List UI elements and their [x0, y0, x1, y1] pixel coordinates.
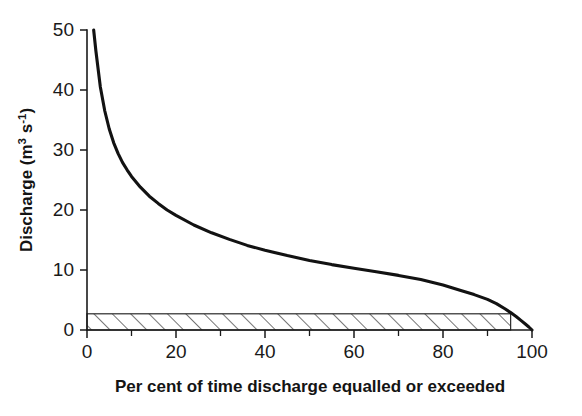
- y-axis-title-sup-2: -1: [16, 113, 28, 124]
- hatched-low-flow-band: [87, 314, 511, 330]
- y-axis-title-main: Discharge (m: [17, 144, 36, 252]
- hatch-band-rect: [87, 314, 511, 330]
- x-axis-title: Per cent of time discharge equalled or e…: [115, 377, 505, 396]
- x-axis-ticks: 020406080100: [82, 330, 548, 362]
- x-tick-label: 20: [165, 341, 186, 362]
- y-axis-title-end: ): [17, 108, 36, 114]
- y-tick-label: 0: [63, 319, 74, 340]
- y-tick-label: 50: [53, 19, 74, 40]
- chart-canvas: 01020304050 020406080100 Discharge (m3 s…: [0, 0, 582, 416]
- flow-duration-curve-figure: 01020304050 020406080100 Discharge (m3 s…: [0, 0, 582, 416]
- y-axis-title: Discharge (m3 s-1): [16, 108, 36, 252]
- y-axis-ticks: 01020304050: [53, 19, 87, 340]
- x-tick-label: 80: [432, 341, 453, 362]
- y-tick-label: 40: [53, 79, 74, 100]
- y-axis-title-mid: s: [17, 124, 36, 138]
- y-tick-label: 20: [53, 199, 74, 220]
- x-tick-label: 40: [254, 341, 275, 362]
- y-tick-label: 30: [53, 139, 74, 160]
- y-tick-label: 10: [53, 259, 74, 280]
- x-tick-label: 0: [82, 341, 93, 362]
- svg-text:Discharge (m3 s-1): Discharge (m3 s-1): [16, 108, 36, 252]
- x-tick-label: 100: [516, 341, 548, 362]
- flow-duration-curve-line: [94, 30, 532, 330]
- x-tick-label: 60: [343, 341, 364, 362]
